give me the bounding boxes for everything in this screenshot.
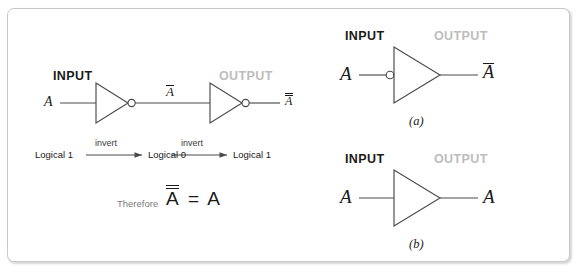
main-inverter1-triangle: [96, 83, 128, 123]
invert-arrow-1-head: [135, 152, 143, 158]
sub-a-input-header: INPUT: [345, 30, 385, 43]
sub-b-triangle: [394, 170, 440, 226]
conclusion-equation: A = A: [166, 188, 220, 208]
invert-arrow-2-head: [220, 152, 228, 158]
main-inverter1-bubble: [128, 99, 135, 106]
main-inverter2-triangle: [210, 83, 242, 123]
sub-a-caption: (a): [409, 115, 424, 128]
logical-step-3: Logical 1: [233, 150, 271, 160]
logical-step-2: Logical 0: [148, 150, 186, 160]
invert-arrow-2-label: invert: [181, 139, 203, 148]
sub-a-input-signal: A: [340, 64, 352, 83]
sub-a-output-signal: A: [483, 62, 494, 81]
equals-sign: =: [184, 188, 203, 209]
figure-linework: [0, 0, 580, 273]
sub-a-output-header: OUTPUT: [434, 30, 488, 43]
sub-b-input-header: INPUT: [345, 153, 385, 166]
conclusion-right-term: A: [207, 188, 220, 209]
logical-step-1: Logical 1: [35, 150, 73, 160]
sub-b-caption: (b): [409, 238, 424, 251]
sub-b-output-header: OUTPUT: [434, 153, 488, 166]
therefore-word: Therefore: [117, 199, 158, 209]
logic-gate-figure: INPUT OUTPUT A A A Logical 1 invert Logi…: [0, 0, 580, 273]
sub-b-input-signal: A: [340, 187, 352, 206]
main-output-header: OUTPUT: [219, 70, 273, 83]
main-middle-signal: A: [166, 84, 174, 98]
main-input-header: INPUT: [53, 70, 93, 83]
main-input-signal: A: [44, 95, 53, 109]
sub-a-input-bubble: [386, 71, 394, 79]
sub-a-triangle: [394, 47, 440, 103]
main-inverter2-bubble: [242, 99, 249, 106]
main-output-signal: A: [285, 94, 292, 107]
sub-b-output-signal: A: [483, 187, 495, 206]
invert-arrow-1-label: invert: [95, 139, 117, 148]
